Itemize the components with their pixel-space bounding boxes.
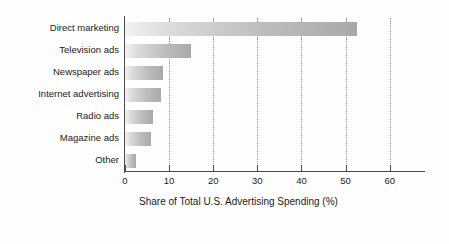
category-label: Direct marketing bbox=[50, 22, 119, 34]
bar-direct-marketing bbox=[125, 22, 357, 36]
x-tick-label-20: 20 bbox=[201, 175, 225, 187]
bar-row bbox=[125, 128, 425, 150]
x-tick-mark-10 bbox=[169, 165, 170, 172]
x-tick-mark-30 bbox=[257, 165, 258, 172]
bar-row bbox=[125, 106, 425, 128]
x-tick-mark-60 bbox=[390, 165, 391, 172]
x-tick-mark-20 bbox=[213, 165, 214, 172]
bar-radio-ads bbox=[125, 110, 153, 124]
x-axis-title-text: Share of Total U.S. Advertising Spending… bbox=[111, 196, 338, 207]
category-label: Television ads bbox=[59, 44, 119, 56]
x-tick-mark-0 bbox=[125, 165, 126, 172]
x-tick-mark-40 bbox=[301, 165, 302, 172]
x-tick-label-30: 30 bbox=[245, 175, 269, 187]
x-tick-label-10: 10 bbox=[157, 175, 181, 187]
y-axis-category-labels: Direct marketingTelevision adsNewspaper … bbox=[0, 18, 119, 172]
y-axis-line bbox=[124, 16, 125, 173]
bar-row bbox=[125, 18, 425, 40]
bar-magazine-ads bbox=[125, 132, 151, 146]
category-label: Magazine ads bbox=[60, 132, 119, 144]
chart-figure: Direct marketingTelevision adsNewspaper … bbox=[0, 0, 449, 244]
bar-series bbox=[125, 18, 425, 172]
bar-internet-advertising bbox=[125, 88, 161, 102]
x-axis-title: Share of Total U.S. Advertising Spending… bbox=[0, 196, 449, 207]
bar-television-ads bbox=[125, 44, 191, 58]
x-tick-label-50: 50 bbox=[334, 175, 358, 187]
bar-row bbox=[125, 84, 425, 106]
category-label: Newspaper ads bbox=[53, 66, 119, 78]
x-tick-label-0: 0 bbox=[113, 175, 137, 187]
x-tick-label-60: 60 bbox=[378, 175, 402, 187]
bar-newspaper-ads bbox=[125, 66, 163, 80]
plot-area bbox=[125, 18, 425, 172]
bar-other bbox=[125, 154, 136, 168]
category-label: Radio ads bbox=[76, 110, 119, 122]
x-tick-label-40: 40 bbox=[289, 175, 313, 187]
category-label: Other bbox=[95, 154, 119, 166]
bar-row bbox=[125, 40, 425, 62]
category-label: Internet advertising bbox=[38, 88, 119, 100]
x-tick-mark-50 bbox=[346, 165, 347, 172]
bar-row bbox=[125, 62, 425, 84]
